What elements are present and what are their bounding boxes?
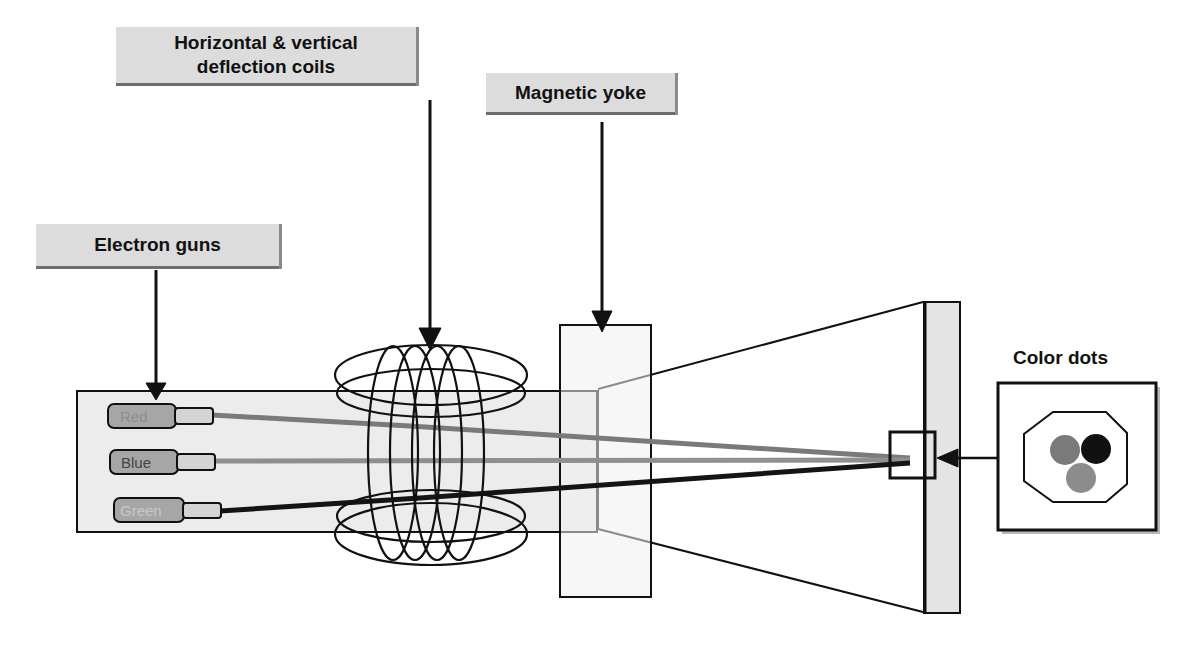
gun-label-green: Green [120,502,162,519]
gun-blue: Blue [110,450,215,474]
crt-diagram: Red Blue Green [0,0,1180,648]
gun-label-blue: Blue [121,454,151,471]
label-magnetic-yoke: Magnetic yoke [486,73,675,115]
gun-label-red: Red [120,408,148,425]
red-dot [1050,435,1080,465]
blue-dot [1081,434,1111,464]
label-deflection-coils-line1: Horizontal & vertical [174,31,358,55]
gun-red: Red [108,404,213,428]
color-dots-inset [998,383,1160,534]
label-electron-guns: Electron guns [36,224,279,269]
label-electron-guns-text: Electron guns [94,233,221,257]
label-color-dots: Color dots [1013,347,1108,369]
label-magnetic-yoke-text: Magnetic yoke [515,81,646,105]
label-deflection-coils: Horizontal & vertical deflection coils [116,27,416,86]
blue-beam [214,460,910,461]
label-deflection-coils-line2: deflection coils [197,55,335,79]
green-dot [1066,463,1096,493]
